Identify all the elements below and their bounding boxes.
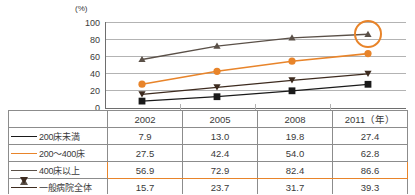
cell-under-200-2005: 13.0 bbox=[183, 128, 258, 145]
line-200-400 bbox=[142, 54, 368, 85]
legend-marker-square-icon bbox=[11, 131, 37, 142]
cell-all-hospitals-2008: 31.7 bbox=[258, 179, 333, 195]
data-table-wrapper: 2002 2005 2008 2011（年） 20 bbox=[8, 110, 407, 190]
cell-400-over-2008: 82.4 bbox=[258, 162, 333, 179]
table-row: 200〜400床 27.5 42.4 54.0 62.8 bbox=[9, 145, 408, 162]
year-header-2011-value: 2011 bbox=[345, 114, 365, 125]
table-header-row: 2002 2005 2008 2011（年） bbox=[9, 111, 408, 128]
chart-figure: (%) 100 80 60 40 20 0 bbox=[0, 0, 415, 194]
year-header-2008: 2008 bbox=[258, 111, 333, 128]
data-table: 2002 2005 2008 2011（年） 20 bbox=[8, 110, 408, 194]
line-under-200 bbox=[142, 84, 368, 101]
legend-row-200-400: 200〜400床 bbox=[9, 145, 108, 162]
table-row: 一般病院全体 15.7 23.7 31.7 39.3 bbox=[9, 179, 408, 195]
legend-label-400-over: 400床以上 bbox=[39, 164, 79, 177]
table-row: 200床未満 7.9 13.0 19.8 27.4 bbox=[9, 128, 408, 145]
cell-400-over-2002: 56.9 bbox=[108, 162, 183, 179]
chart-plot-area: (%) 100 80 60 40 20 0 bbox=[0, 0, 415, 112]
series-lines bbox=[0, 0, 415, 112]
cell-200-400-2008: 54.0 bbox=[258, 145, 333, 162]
legend-label-under-200: 200床未満 bbox=[39, 130, 79, 143]
cell-all-hospitals-2005: 23.7 bbox=[183, 179, 258, 195]
legend-marker-triangle-up-icon bbox=[11, 165, 37, 176]
line-400-over bbox=[142, 34, 368, 59]
legend-label-200-400: 200〜400床 bbox=[39, 147, 85, 160]
year-unit-label: （年） bbox=[365, 114, 395, 125]
cell-400-over-2005: 72.9 bbox=[183, 162, 258, 179]
markers-200-400 bbox=[138, 50, 371, 88]
cell-under-200-2008: 19.8 bbox=[258, 128, 333, 145]
cell-under-200-2011: 27.4 bbox=[333, 128, 408, 145]
legend-row-under-200: 200床未満 bbox=[9, 128, 108, 145]
year-header-2002: 2002 bbox=[108, 111, 183, 128]
year-header-2005: 2005 bbox=[183, 111, 258, 128]
cell-200-400-2002: 27.5 bbox=[108, 145, 183, 162]
year-header-2011: 2011（年） bbox=[333, 111, 408, 128]
table-row-highlighted: 400床以上 56.9 72.9 82.4 86.6 bbox=[9, 162, 408, 179]
cell-400-over-2011: 86.6 bbox=[333, 162, 408, 179]
cell-all-hospitals-2011: 39.3 bbox=[333, 179, 408, 195]
header-spacer bbox=[9, 111, 108, 128]
cell-under-200-2002: 7.9 bbox=[108, 128, 183, 145]
legend-marker-circle-icon bbox=[11, 148, 37, 159]
cell-200-400-2005: 42.4 bbox=[183, 145, 258, 162]
legend-marker-triangle-down-icon bbox=[11, 182, 37, 193]
legend-row-400-over: 400床以上 bbox=[9, 162, 108, 179]
line-all-hospitals bbox=[142, 74, 368, 95]
cell-all-hospitals-2002: 15.7 bbox=[108, 179, 183, 195]
legend-row-all-hospitals: 一般病院全体 bbox=[9, 179, 108, 195]
legend-label-all-hospitals: 一般病院全体 bbox=[39, 181, 91, 194]
cell-200-400-2011: 62.8 bbox=[333, 145, 408, 162]
